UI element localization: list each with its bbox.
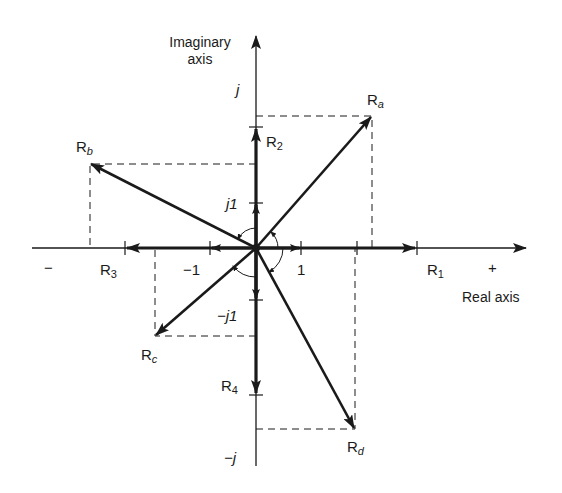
real-negative-label: − <box>44 260 53 275</box>
label-r3-sub: 3 <box>111 268 117 280</box>
label-ra-base: R <box>367 91 378 108</box>
tick-label-j1-text: j1 <box>226 195 238 212</box>
angle-arc-rd <box>269 248 283 272</box>
label-r1-sub: 1 <box>438 268 444 280</box>
imag-positive-label-text: j <box>236 81 239 98</box>
complex-plane-diagram <box>0 0 562 493</box>
tick-label-neg-j1-text: −j1 <box>217 307 237 324</box>
label-r2-base: R <box>266 133 277 150</box>
axis-ticks <box>125 127 417 395</box>
label-rc: Rc <box>141 347 157 365</box>
tick-label-j1: j1 <box>226 196 238 211</box>
label-ra-sub: a <box>378 98 384 110</box>
label-r3: R3 <box>100 262 117 280</box>
label-rb-sub: b <box>87 145 93 157</box>
real-positive-label: + <box>488 260 497 275</box>
label-r2: R2 <box>266 134 283 152</box>
tick-label-neg1: −1 <box>183 262 200 277</box>
imaginary-axis-title: Imaginary axis <box>150 34 250 68</box>
axes <box>32 36 526 466</box>
label-ra: Ra <box>367 92 384 110</box>
imag-positive-label: j <box>236 82 239 97</box>
label-rc-sub: c <box>152 353 158 365</box>
label-rb: Rb <box>76 139 93 157</box>
angle-arc-rb <box>238 228 256 239</box>
label-r1-base: R <box>427 261 438 278</box>
label-r4: R4 <box>221 378 238 396</box>
label-r2-sub: 2 <box>277 140 283 152</box>
phasor-rc <box>156 248 256 335</box>
tick-label-1: 1 <box>297 262 305 277</box>
imaginary-axis-title-line2: axis <box>150 51 250 68</box>
label-r4-base: R <box>221 377 232 394</box>
label-rc-base: R <box>141 346 152 363</box>
label-r3-base: R <box>100 261 111 278</box>
tick-label-neg-j1: −j1 <box>217 308 237 323</box>
origin-point <box>252 244 260 252</box>
imag-negative-label-text: −j <box>224 449 236 466</box>
imag-negative-label: −j <box>224 450 236 465</box>
label-r1: R1 <box>427 262 444 280</box>
label-rd: Rd <box>347 439 364 457</box>
label-rb-base: R <box>76 138 87 155</box>
angle-arc-rc <box>233 266 256 277</box>
real-axis-title: Real axis <box>462 290 520 304</box>
angle-arc-ra <box>271 232 278 248</box>
label-rd-base: R <box>347 438 358 455</box>
imaginary-axis-title-line1: Imaginary <box>150 34 250 51</box>
label-r4-sub: 4 <box>232 384 238 396</box>
label-rd-sub: d <box>358 445 364 457</box>
